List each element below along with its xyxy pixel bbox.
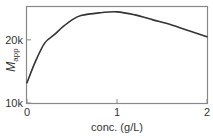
y-tick-label: 10k <box>5 97 23 109</box>
plot-frame <box>27 7 208 104</box>
x-tick-label: 0 <box>24 106 30 118</box>
y-axis-label: Mapp <box>4 48 20 72</box>
x-tick-label: 2 <box>204 106 210 118</box>
x-axis-label: conc. (g/L) <box>91 121 143 133</box>
y-tick-label: 20k <box>5 34 23 46</box>
x-tick-label: 1 <box>114 106 120 118</box>
line-chart: 10k20k 012 conc. (g/L) Mapp <box>0 0 213 138</box>
x-axis-ticks: 012 <box>24 99 210 118</box>
data-curve <box>27 12 207 83</box>
